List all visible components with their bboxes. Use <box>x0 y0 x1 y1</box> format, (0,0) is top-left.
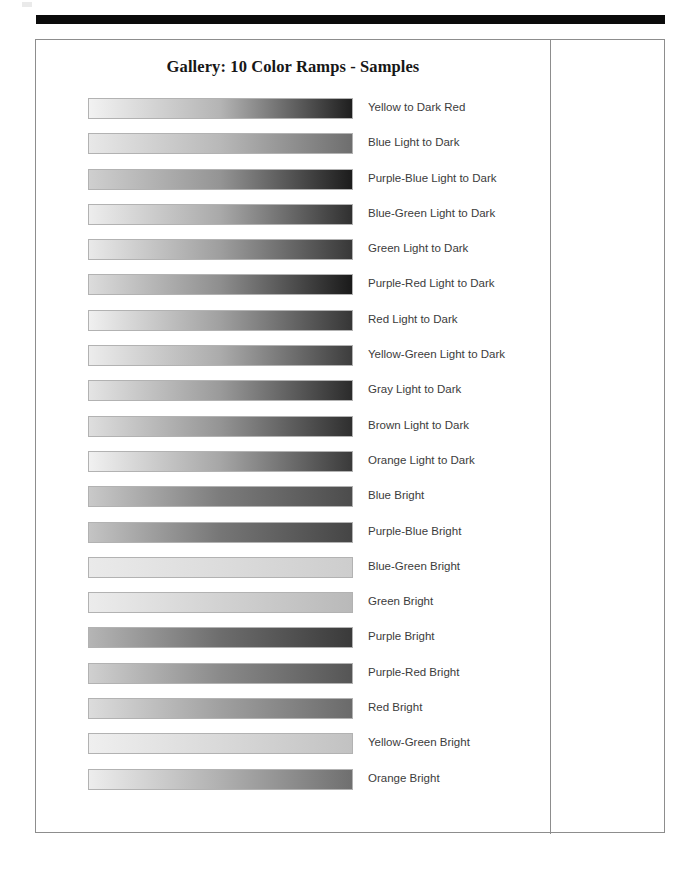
ramp-row: Yellow-Green Light to Dark <box>36 343 550 378</box>
ramp-row: Purple-Blue Light to Dark <box>36 167 550 202</box>
ramp-row: Brown Light to Dark <box>36 414 550 449</box>
ramp-swatch[interactable] <box>88 733 353 754</box>
ramp-row: Yellow to Dark Red <box>36 96 550 131</box>
ramp-label: Purple-Red Bright <box>368 666 459 678</box>
scan-artifact <box>22 2 32 7</box>
ramp-row: Purple-Red Light to Dark <box>36 272 550 307</box>
ramp-label: Blue Light to Dark <box>368 136 459 148</box>
ramp-label: Purple-Red Light to Dark <box>368 277 495 289</box>
ramp-label: Yellow to Dark Red <box>368 101 465 113</box>
ramp-row: Gray Light to Dark <box>36 378 550 413</box>
ramp-label: Purple-Blue Light to Dark <box>368 172 496 184</box>
ramp-swatch[interactable] <box>88 98 353 119</box>
ramp-row: Orange Bright <box>36 767 550 802</box>
ramp-swatch[interactable] <box>88 627 353 648</box>
ramp-swatch[interactable] <box>88 380 353 401</box>
ramp-swatch[interactable] <box>88 345 353 366</box>
ramp-swatch[interactable] <box>88 592 353 613</box>
ramp-row: Blue-Green Light to Dark <box>36 202 550 237</box>
color-ramp-list: Yellow to Dark RedBlue Light to DarkPurp… <box>36 96 550 802</box>
ramp-swatch[interactable] <box>88 557 353 578</box>
ramp-row: Yellow-Green Bright <box>36 731 550 766</box>
ramp-swatch[interactable] <box>88 204 353 225</box>
ramp-label: Yellow-Green Bright <box>368 736 470 748</box>
ramp-label: Red Bright <box>368 701 422 713</box>
ramp-row: Purple-Blue Bright <box>36 520 550 555</box>
ramp-swatch[interactable] <box>88 486 353 507</box>
top-rule <box>36 15 665 24</box>
page-title: Gallery: 10 Color Ramps - Samples <box>36 57 550 77</box>
ramp-swatch[interactable] <box>88 663 353 684</box>
ramp-swatch[interactable] <box>88 522 353 543</box>
ramp-swatch[interactable] <box>88 416 353 437</box>
ramp-label: Blue-Green Light to Dark <box>368 207 495 219</box>
ramp-label: Green Bright <box>368 595 433 607</box>
ramp-swatch[interactable] <box>88 274 353 295</box>
ramp-swatch[interactable] <box>88 169 353 190</box>
right-panel <box>551 40 665 834</box>
ramp-row: Blue Bright <box>36 484 550 519</box>
ramp-swatch[interactable] <box>88 133 353 154</box>
ramp-swatch[interactable] <box>88 310 353 331</box>
ramp-label: Blue-Green Bright <box>368 560 460 572</box>
ramp-row: Green Bright <box>36 590 550 625</box>
ramp-swatch[interactable] <box>88 698 353 719</box>
ramp-label: Yellow-Green Light to Dark <box>368 348 505 360</box>
ramp-row: Purple-Red Bright <box>36 661 550 696</box>
ramp-row: Blue-Green Bright <box>36 555 550 590</box>
ramp-swatch[interactable] <box>88 239 353 260</box>
ramp-label: Green Light to Dark <box>368 242 468 254</box>
ramp-label: Brown Light to Dark <box>368 419 469 431</box>
ramp-label: Purple Bright <box>368 630 434 642</box>
ramp-label: Gray Light to Dark <box>368 383 461 395</box>
ramp-row: Blue Light to Dark <box>36 131 550 166</box>
ramp-row: Green Light to Dark <box>36 237 550 272</box>
page-frame: Gallery: 10 Color Ramps - Samples Yellow… <box>35 39 665 833</box>
ramp-label: Red Light to Dark <box>368 313 458 325</box>
ramp-row: Red Bright <box>36 696 550 731</box>
ramp-label: Purple-Blue Bright <box>368 525 461 537</box>
ramp-label: Orange Bright <box>368 772 440 784</box>
ramp-label: Orange Light to Dark <box>368 454 475 466</box>
ramp-row: Purple Bright <box>36 625 550 660</box>
ramp-row: Orange Light to Dark <box>36 449 550 484</box>
ramp-label: Blue Bright <box>368 489 424 501</box>
ramp-swatch[interactable] <box>88 451 353 472</box>
ramp-swatch[interactable] <box>88 769 353 790</box>
ramp-row: Red Light to Dark <box>36 308 550 343</box>
